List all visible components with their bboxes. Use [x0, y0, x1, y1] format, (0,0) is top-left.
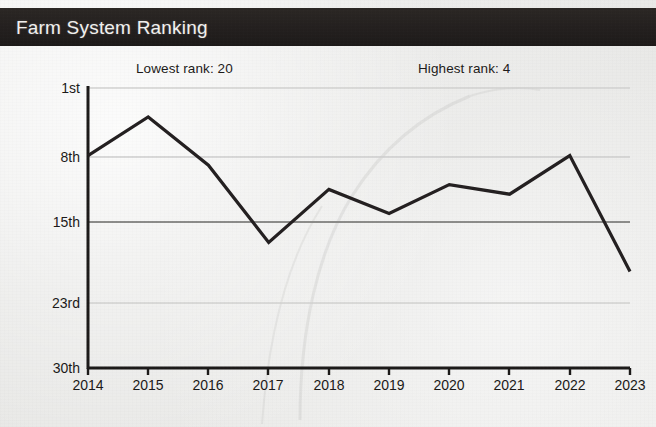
- chart-plot-svg: [0, 0, 656, 427]
- y-tick-label-8th: 8th: [28, 149, 80, 165]
- gridlines: [88, 88, 630, 303]
- x-tick-label-2019: 2019: [364, 377, 414, 393]
- x-tick-label-2018: 2018: [304, 377, 354, 393]
- y-tick-label-15th: 15th: [28, 214, 80, 230]
- y-tick-label-30th: 30th: [28, 360, 80, 376]
- x-tick-label-2023: 2023: [605, 377, 655, 393]
- x-tick-label-2022: 2022: [545, 377, 595, 393]
- data-line-series: [88, 117, 630, 271]
- x-tick-label-2015: 2015: [123, 377, 173, 393]
- x-tick-label-2014: 2014: [63, 377, 113, 393]
- x-tick-label-2016: 2016: [183, 377, 233, 393]
- x-tick-label-2017: 2017: [243, 377, 293, 393]
- axis-lines: [88, 86, 630, 369]
- line-chart: 1st 8th 15th 23rd 30th 2014 2015 2016 20…: [0, 0, 656, 427]
- chart-page: Farm System Ranking Lowest rank: 20 High…: [0, 0, 656, 427]
- y-tick-label-23rd: 23rd: [28, 295, 80, 311]
- x-tick-label-2020: 2020: [424, 377, 474, 393]
- x-tick-label-2021: 2021: [484, 377, 534, 393]
- y-tick-label-1st: 1st: [28, 80, 80, 96]
